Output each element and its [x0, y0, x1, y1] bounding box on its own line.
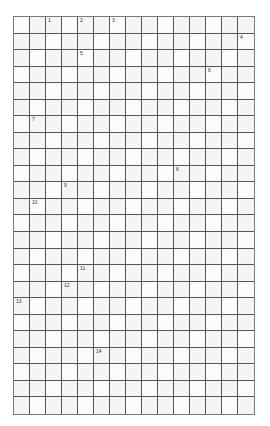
- grid-cell[interactable]: [62, 364, 78, 381]
- grid-cell[interactable]: [62, 348, 78, 365]
- grid-cell[interactable]: [14, 34, 30, 51]
- grid-cell[interactable]: [126, 199, 142, 216]
- grid-cell[interactable]: [174, 397, 190, 414]
- grid-cell[interactable]: [14, 149, 30, 166]
- grid-cell[interactable]: [222, 397, 238, 414]
- grid-cell[interactable]: [238, 116, 254, 133]
- grid-cell[interactable]: [238, 67, 254, 84]
- grid-cell[interactable]: [190, 67, 206, 84]
- grid-cell[interactable]: [30, 348, 46, 365]
- grid-cell[interactable]: [206, 331, 222, 348]
- grid-cell[interactable]: [78, 381, 94, 398]
- grid-cell[interactable]: [78, 215, 94, 232]
- grid-cell[interactable]: [30, 381, 46, 398]
- grid-cell[interactable]: [46, 166, 62, 183]
- grid-cell[interactable]: [46, 397, 62, 414]
- grid-cell[interactable]: [30, 282, 46, 299]
- grid-cell[interactable]: [126, 315, 142, 332]
- grid-cell[interactable]: [174, 364, 190, 381]
- grid-cell[interactable]: [62, 166, 78, 183]
- grid-cell[interactable]: [126, 182, 142, 199]
- grid-cell[interactable]: [46, 348, 62, 365]
- grid-cell[interactable]: [238, 50, 254, 67]
- grid-cell[interactable]: [238, 83, 254, 100]
- grid-cell[interactable]: [94, 83, 110, 100]
- grid-cell[interactable]: [62, 67, 78, 84]
- grid-cell[interactable]: [94, 116, 110, 133]
- grid-cell[interactable]: [238, 149, 254, 166]
- grid-cell[interactable]: [62, 249, 78, 266]
- grid-cell[interactable]: [142, 166, 158, 183]
- grid-cell[interactable]: [238, 315, 254, 332]
- grid-cell[interactable]: [94, 298, 110, 315]
- grid-cell[interactable]: [30, 265, 46, 282]
- grid-cell[interactable]: [158, 166, 174, 183]
- grid-cell[interactable]: [46, 100, 62, 117]
- grid-cell[interactable]: [142, 215, 158, 232]
- grid-cell[interactable]: [30, 315, 46, 332]
- grid-cell[interactable]: [94, 149, 110, 166]
- grid-cell[interactable]: [62, 298, 78, 315]
- grid-cell[interactable]: [110, 364, 126, 381]
- grid-cell[interactable]: [222, 265, 238, 282]
- grid-cell[interactable]: [206, 17, 222, 34]
- grid-cell[interactable]: [222, 348, 238, 365]
- grid-cell[interactable]: [222, 83, 238, 100]
- grid-cell[interactable]: [46, 182, 62, 199]
- grid-cell[interactable]: [238, 199, 254, 216]
- grid-cell[interactable]: [46, 298, 62, 315]
- grid-cell[interactable]: [174, 116, 190, 133]
- grid-cell[interactable]: [174, 133, 190, 150]
- grid-cell[interactable]: [62, 149, 78, 166]
- grid-cell[interactable]: [94, 232, 110, 249]
- grid-cell[interactable]: [190, 315, 206, 332]
- grid-cell[interactable]: [142, 265, 158, 282]
- grid-cell[interactable]: [206, 232, 222, 249]
- grid-cell[interactable]: [110, 348, 126, 365]
- grid-cell[interactable]: [14, 265, 30, 282]
- grid-cell[interactable]: [46, 265, 62, 282]
- grid-cell[interactable]: [46, 331, 62, 348]
- grid-cell[interactable]: [206, 298, 222, 315]
- grid-cell[interactable]: [46, 315, 62, 332]
- grid-cell[interactable]: [238, 100, 254, 117]
- grid-cell[interactable]: 6: [206, 67, 222, 84]
- grid-cell[interactable]: [62, 100, 78, 117]
- grid-cell[interactable]: [110, 315, 126, 332]
- grid-cell[interactable]: [190, 100, 206, 117]
- grid-cell[interactable]: [142, 149, 158, 166]
- grid-cell[interactable]: [238, 331, 254, 348]
- grid-cell[interactable]: [142, 348, 158, 365]
- grid-cell[interactable]: [222, 199, 238, 216]
- grid-cell[interactable]: [174, 298, 190, 315]
- grid-cell[interactable]: [158, 116, 174, 133]
- grid-cell[interactable]: [126, 116, 142, 133]
- grid-cell[interactable]: [78, 331, 94, 348]
- grid-cell[interactable]: [222, 315, 238, 332]
- grid-cell[interactable]: [158, 282, 174, 299]
- grid-cell[interactable]: [46, 215, 62, 232]
- grid-cell[interactable]: [46, 133, 62, 150]
- grid-cell[interactable]: [174, 67, 190, 84]
- grid-cell[interactable]: [174, 282, 190, 299]
- grid-cell[interactable]: [158, 34, 174, 51]
- grid-cell[interactable]: [174, 215, 190, 232]
- grid-cell[interactable]: [126, 166, 142, 183]
- grid-cell[interactable]: [14, 315, 30, 332]
- grid-cell[interactable]: [222, 116, 238, 133]
- grid-cell[interactable]: [206, 199, 222, 216]
- grid-cell[interactable]: [78, 199, 94, 216]
- grid-cell[interactable]: [62, 50, 78, 67]
- grid-cell[interactable]: [174, 182, 190, 199]
- grid-cell[interactable]: [190, 298, 206, 315]
- grid-cell[interactable]: [174, 149, 190, 166]
- grid-cell[interactable]: [158, 100, 174, 117]
- grid-cell[interactable]: [78, 116, 94, 133]
- grid-cell[interactable]: 11: [78, 265, 94, 282]
- grid-cell[interactable]: [142, 232, 158, 249]
- grid-cell[interactable]: [14, 282, 30, 299]
- grid-cell[interactable]: [94, 397, 110, 414]
- grid-cell[interactable]: [142, 397, 158, 414]
- grid-cell[interactable]: [94, 282, 110, 299]
- grid-cell[interactable]: [190, 17, 206, 34]
